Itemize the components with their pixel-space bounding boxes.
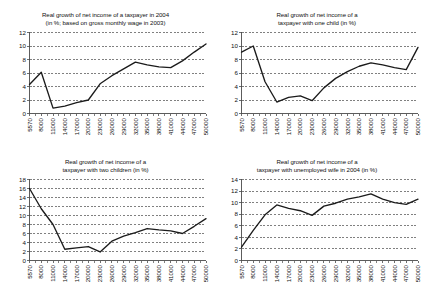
x-axis-label: 35000 [143,265,150,283]
x-axis-label: 32000 [343,118,350,136]
x-axis-label: 11000 [49,265,56,282]
x-axis-label: 23000 [96,265,103,283]
y-axis-label: 8 [22,56,26,63]
x-axis-label: 23000 [96,118,103,136]
x-axis-label: 29000 [331,265,338,283]
chart-svg-bottom-right: 0246810121455708000110001400017000200002… [212,147,423,294]
x-axis-label: 44000 [390,118,397,136]
x-axis-label: 41000 [167,265,174,283]
x-axis-label: 32000 [343,265,350,283]
y-axis-label: 0 [22,110,26,117]
y-axis-label: 18 [19,176,26,183]
y-axis-label: 10 [19,42,26,49]
plot-area-top-left: 0246810125570800011000140001700020000230… [0,0,211,147]
x-axis-label: 38000 [367,118,374,136]
x-axis-label: 8000 [37,265,44,279]
data-series-line [241,46,418,102]
chart-svg-top-left: 0246810125570800011000140001700020000230… [0,0,211,147]
x-axis-label: 44000 [179,118,186,136]
x-axis-label: 50000 [202,118,209,136]
y-axis-label: 4 [22,239,26,246]
y-axis-label: 12 [19,29,26,36]
x-axis-label: 41000 [378,118,385,136]
x-axis-label: 14000 [61,118,68,136]
x-axis-label: 26000 [108,265,115,283]
x-axis-label: 47000 [190,265,197,283]
y-axis-label: 2 [22,96,26,103]
data-series-line [241,194,418,247]
x-axis-label: 47000 [402,265,409,283]
y-axis-ticks-group: 024681012 [231,29,241,117]
plot-area-bottom-left: 0246810121416185570800011000140001700020… [0,147,211,294]
x-axis-label: 17000 [73,118,80,136]
x-axis-label: 29000 [120,118,127,136]
y-axis-label: 16 [19,185,26,192]
x-axis-label: 20000 [296,265,303,283]
y-axis-label: 8 [234,56,238,63]
x-axis-label: 29000 [120,265,127,283]
x-axis-label: 5570 [26,265,33,279]
y-axis-label: 12 [19,203,26,210]
x-axis-label: 38000 [367,265,374,283]
x-axis-label: 8000 [249,265,256,279]
y-axis-label: 4 [234,83,238,90]
x-axis-label: 47000 [190,118,197,136]
chart-svg-bottom-left: 0246810121416185570800011000140001700020… [0,147,211,294]
x-axis-label: 41000 [378,265,385,283]
chart-panel-bottom-left: Real growth of net income of a taxpayer … [0,147,211,294]
x-axis-label: 14000 [61,265,68,283]
x-axis-label: 20000 [296,118,303,136]
x-axis-label: 17000 [73,265,80,283]
x-axis-label: 20000 [84,265,91,283]
x-axis-label: 23000 [308,265,315,283]
plot-area-top-right: 0246810125570800011000140001700020000230… [212,0,423,147]
gridlines-group [30,33,207,101]
x-axis-label: 11000 [261,118,268,135]
y-axis-label: 0 [234,257,238,264]
x-axis-label: 32000 [132,265,139,283]
plot-area-bottom-right: 0246810121455708000110001400017000200002… [212,147,423,294]
x-axis-label: 41000 [167,118,174,136]
x-axis-label: 50000 [414,265,421,283]
y-axis-label: 2 [234,96,238,103]
x-axis-label: 50000 [202,265,209,283]
x-axis-ticks-group: 5570800011000140001700020000230002600029… [26,114,210,136]
y-axis-label: 2 [234,245,238,252]
x-axis-label: 11000 [261,265,268,282]
chart-panel-bottom-right: Real growth of net income of a taxpayer … [212,147,423,294]
x-axis-label: 47000 [402,118,409,136]
y-axis-label: 8 [234,210,238,217]
x-axis-label: 14000 [272,265,279,283]
x-axis-label: 44000 [390,265,397,283]
x-axis-label: 32000 [132,118,139,136]
x-axis-label: 35000 [355,265,362,283]
data-series-line [30,44,207,108]
x-axis-label: 20000 [84,118,91,136]
y-axis-label: 6 [22,230,26,237]
y-axis-label: 2 [22,248,26,255]
y-axis-label: 4 [234,234,238,241]
y-axis-label: 0 [234,110,238,117]
y-axis-label: 12 [231,187,238,194]
x-axis-label: 17000 [284,265,291,283]
x-axis-ticks-group: 5570800011000140001700020000230002600029… [237,114,421,136]
x-axis-label: 11000 [49,118,56,135]
y-axis-ticks-group: 024681012 [19,29,29,117]
gridlines-group [241,180,418,249]
y-axis-ticks-group: 024681012141618 [19,176,29,264]
x-axis-label: 26000 [108,118,115,136]
y-axis-label: 10 [231,42,238,49]
y-axis-label: 10 [19,212,26,219]
x-axis-ticks-group: 5570800011000140001700020000230002600029… [26,261,210,283]
x-axis-label: 5570 [237,265,244,279]
x-axis-label: 5570 [26,118,33,132]
y-axis-label: 14 [231,176,238,183]
x-axis-label: 38000 [155,118,162,136]
x-axis-label: 23000 [308,118,315,136]
x-axis-label: 26000 [319,265,326,283]
y-axis-label: 6 [234,69,238,76]
y-axis-ticks-group: 02468101214 [231,176,241,264]
x-axis-label: 44000 [179,265,186,283]
chart-svg-top-right: 0246810125570800011000140001700020000230… [212,0,423,147]
x-axis-label: 35000 [143,118,150,136]
